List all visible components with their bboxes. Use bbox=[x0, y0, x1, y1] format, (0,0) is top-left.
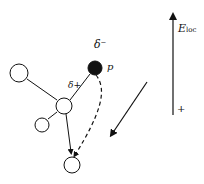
proton bbox=[88, 61, 102, 75]
atom-small-left bbox=[35, 118, 49, 132]
delta-plus-label: δ+ bbox=[68, 80, 81, 90]
proton-label: p bbox=[107, 61, 113, 72]
plus-sign-label: + bbox=[177, 103, 185, 114]
migration-arrow bbox=[112, 82, 147, 134]
bond-top-left-center bbox=[27, 79, 57, 100]
diagram-canvas bbox=[0, 0, 204, 184]
field-label-subscript: loc bbox=[186, 26, 196, 34]
atom-bottom bbox=[64, 157, 80, 173]
atom-top-left bbox=[10, 64, 28, 82]
field-label-main: E bbox=[178, 22, 186, 35]
delta-minus-label: δ⁻ bbox=[94, 38, 106, 51]
bond-center-bottom bbox=[66, 114, 71, 152]
atom-center bbox=[56, 98, 72, 114]
field-label: Eloc bbox=[178, 22, 196, 35]
bond-center-small bbox=[48, 112, 57, 119]
